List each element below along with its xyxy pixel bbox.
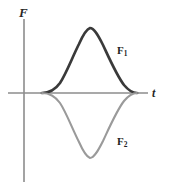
plot-canvas (0, 0, 170, 186)
y-axis-label: F (19, 6, 28, 19)
x-axis-label: t (152, 87, 155, 99)
curve-f1 (42, 28, 137, 93)
curve-label-f2-subscript: 2 (124, 140, 128, 149)
curve-label-f2: F2 (117, 136, 127, 149)
force-time-figure: F t F1 F2 (0, 0, 170, 186)
curve-label-f1: F1 (117, 45, 127, 58)
curve-label-f1-base: F (117, 44, 124, 56)
curve-label-f1-subscript: 1 (124, 49, 128, 58)
curve-label-f2-base: F (117, 135, 124, 147)
